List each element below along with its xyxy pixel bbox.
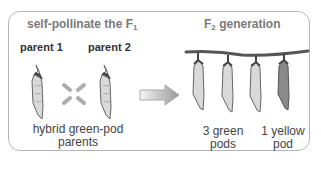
parent-2-label: parent 2	[88, 41, 131, 53]
parents-caption: hybrid green-pod parents	[18, 123, 138, 149]
parent-1-label: parent 1	[20, 41, 63, 53]
yellow-pod-caption: 1 yellow pod	[248, 125, 318, 151]
right-arrow-icon	[139, 84, 181, 106]
yellow-caption-line-2: pod	[248, 138, 318, 151]
parent-2-pod-icon	[96, 63, 126, 123]
left-title: self-pollinate the F1	[27, 17, 137, 32]
f2-pod-2-icon	[222, 55, 233, 112]
f2-pod-3-icon	[250, 56, 261, 112]
parent-1-pod-icon	[28, 63, 58, 123]
cross-icon	[62, 83, 86, 105]
f2-pod-4-yellow-icon	[278, 53, 289, 110]
vine-icon	[184, 48, 310, 128]
f2-pod-1-icon	[193, 53, 204, 110]
right-title: F2 generation	[204, 17, 280, 32]
caption-line-2: parents	[18, 136, 138, 149]
